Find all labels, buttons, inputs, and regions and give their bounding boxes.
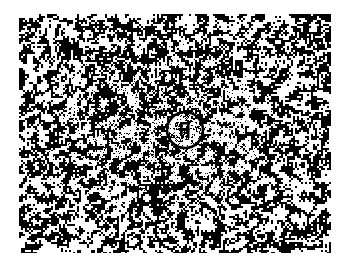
noise-field xyxy=(19,14,331,253)
noise-pattern-canvas xyxy=(19,14,331,253)
figure-canvas xyxy=(0,0,344,269)
